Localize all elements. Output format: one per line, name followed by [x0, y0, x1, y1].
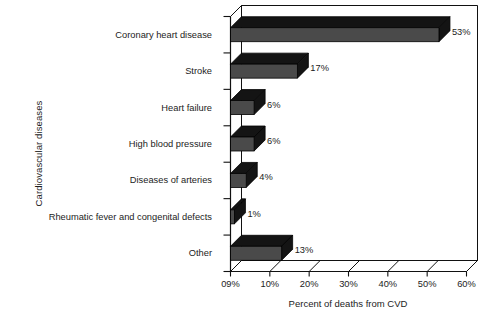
bar-value-label: 17%	[310, 63, 329, 73]
x-axis-tick-label: 60%	[450, 279, 484, 289]
bar-value-label: 53%	[452, 27, 471, 37]
bar	[231, 53, 309, 78]
bar-value-label: 4%	[259, 172, 272, 182]
x-axis-tick-label: 20%	[292, 279, 326, 289]
bar-value-label: 1%	[247, 209, 260, 219]
x-axis-tick-label: 10%	[253, 279, 287, 289]
x-axis-title: Percent of deaths from CVD	[228, 298, 468, 309]
bar	[231, 235, 293, 260]
bar-chart: Cardiovascular diseases OtherRheumatic f…	[0, 0, 485, 317]
plot-area	[0, 0, 485, 317]
x-axis-tick-label: 40%	[371, 279, 405, 289]
x-axis-tick-label: 50%	[410, 279, 444, 289]
bar-value-label: 6%	[267, 100, 280, 110]
x-axis-tick-label: 09%	[214, 279, 248, 289]
bar-value-label: 13%	[295, 245, 314, 255]
x-axis-tick-label: 30%	[332, 279, 366, 289]
bar-value-label: 6%	[267, 136, 280, 146]
bar	[231, 17, 450, 42]
